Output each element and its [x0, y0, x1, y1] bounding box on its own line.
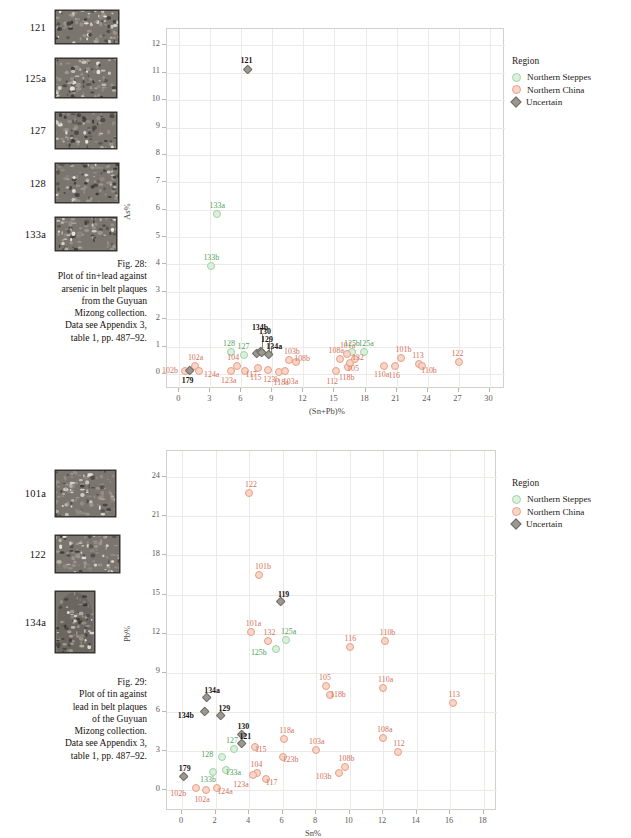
data-point-label: 133a [226, 768, 241, 777]
data-point-label: 101a [246, 619, 261, 628]
data-point-label: 116 [388, 371, 400, 380]
data-point-label: 108b [339, 754, 355, 763]
data-point [280, 735, 288, 743]
legend-item[interactable]: Northern Steppes [512, 493, 591, 506]
x-tick [271, 388, 272, 392]
data-point-label: 123b [283, 755, 299, 764]
grid-line-horizontal [167, 128, 505, 129]
data-point-label: 105 [319, 673, 331, 682]
y-tick-label: 6 [130, 705, 160, 714]
data-point-label: 128 [201, 750, 213, 759]
x-axis-title: Sn% [305, 828, 321, 838]
legend-key-diamond [510, 97, 521, 108]
y-tick-label: 8 [130, 148, 160, 157]
data-point-label: 119 [278, 590, 289, 599]
data-point-label: 134a [204, 686, 220, 695]
legend-item[interactable]: Northern Steppes [512, 71, 591, 84]
y-tick-label: 11 [130, 66, 160, 75]
grid-line-horizontal [167, 595, 497, 596]
data-point [247, 628, 255, 636]
y-tick [162, 154, 166, 155]
y-axis-title: As% [122, 203, 132, 220]
y-tick [162, 236, 166, 237]
x-tick [489, 388, 490, 392]
data-point-label: 101b [396, 345, 412, 354]
data-point [379, 684, 387, 692]
data-point-label: 115 [255, 745, 267, 754]
grid-line-horizontal [167, 182, 505, 183]
data-point [397, 354, 405, 362]
data-point-label: 125a [281, 627, 296, 636]
data-point-label: 124a [204, 370, 219, 379]
grid-line-horizontal [167, 237, 505, 238]
data-point [449, 699, 457, 707]
grid-line-vertical [316, 451, 317, 811]
data-point [335, 769, 343, 777]
y-tick-label: 5 [130, 231, 160, 240]
x-tick [315, 810, 316, 814]
y-tick-label: 12 [130, 627, 160, 636]
data-point-label: 179 [182, 376, 194, 385]
data-point [199, 706, 209, 716]
x-tick-label: 18 [463, 816, 503, 825]
y-tick [162, 127, 166, 128]
data-point-label: 132 [264, 628, 276, 637]
data-point-label: 125b [251, 648, 267, 657]
data-point-label: 108b [294, 354, 310, 363]
grid-line-vertical [417, 451, 418, 811]
grid-line-horizontal [167, 319, 505, 320]
data-point-label: 113 [448, 690, 460, 699]
y-tick-label: 0 [130, 367, 160, 376]
data-point-label: 102a [194, 795, 209, 804]
legend-item-label: Northern Steppes [527, 72, 591, 82]
x-tick [181, 810, 182, 814]
y-tick [162, 594, 166, 595]
legend-key-circle [512, 507, 521, 516]
x-tick [178, 388, 179, 392]
data-point [379, 734, 387, 742]
y-tick [162, 515, 166, 516]
data-point-label: 122 [245, 480, 257, 489]
grid-line-vertical [484, 451, 485, 811]
plot-area: 133a133b128127125b125a102b102a124a123a10… [166, 28, 504, 388]
x-tick [382, 810, 383, 814]
x-tick [240, 388, 241, 392]
data-point-label: 179 [179, 764, 191, 773]
y-tick-label: 9 [130, 121, 160, 130]
data-point-label: 127 [238, 342, 250, 351]
data-point-label: 134a [266, 342, 282, 351]
x-axis-title: (Sn+Pb)% [309, 406, 345, 416]
y-tick [162, 181, 166, 182]
data-point [213, 210, 221, 218]
legend-item[interactable]: Uncertain [512, 96, 591, 109]
figure-28: 121125a127128133aFig. 28:Plot of tin+lea… [0, 0, 631, 420]
data-point [264, 366, 272, 374]
x-tick [427, 388, 428, 392]
grid-line-horizontal [167, 264, 505, 265]
data-point [207, 262, 215, 270]
grid-line-horizontal [167, 45, 505, 46]
legend-item[interactable]: Northern China [512, 84, 591, 97]
plot-panel: 125a125b127128133a133b122101b101a1321161… [0, 420, 631, 838]
data-point [218, 753, 226, 761]
data-point [272, 645, 280, 653]
data-point-label: 110b [380, 628, 396, 637]
grid-line-horizontal [167, 555, 497, 556]
data-point-label: 123a [221, 376, 236, 385]
y-tick [162, 373, 166, 374]
data-point [249, 771, 257, 779]
data-point [178, 772, 188, 782]
data-point-label: 102b [170, 789, 186, 798]
legend-item[interactable]: Northern China [512, 506, 591, 519]
data-point [343, 350, 351, 358]
legend-item[interactable]: Uncertain [512, 518, 591, 531]
data-point-label: 130 [237, 722, 249, 731]
data-point [346, 643, 354, 651]
x-tick [302, 388, 303, 392]
data-point-label: 103a [283, 377, 298, 386]
figure-page: 121125a127128133aFig. 28:Plot of tin+lea… [0, 0, 631, 838]
data-point-label: 110a [378, 675, 393, 684]
y-tick-label: 4 [130, 258, 160, 267]
data-point [380, 362, 388, 370]
data-point-label: 118b [339, 373, 355, 382]
